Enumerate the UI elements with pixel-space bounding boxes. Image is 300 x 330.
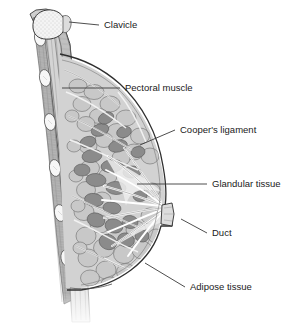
leader-line-clavicle	[69, 22, 99, 25]
label-text-duct: Duct	[212, 227, 232, 238]
anatomy-figure: Clavicle Pectoral muscle Cooper's ligame…	[0, 0, 300, 330]
bottom-fade	[0, 292, 300, 330]
label-text-coopers-ligament: Cooper's ligament	[180, 124, 257, 135]
label-clavicle[interactable]: Clavicle	[69, 19, 137, 30]
label-adipose-tissue[interactable]: Adipose tissue	[145, 263, 252, 292]
leader-line-duct	[181, 219, 207, 233]
label-duct[interactable]: Duct	[181, 219, 232, 238]
breast-cross-section-illustration: Clavicle Pectoral muscle Cooper's ligame…	[0, 0, 300, 330]
leader-line-adipose-tissue	[145, 263, 185, 287]
label-text-clavicle: Clavicle	[104, 19, 137, 30]
label-text-glandular-tissue: Glandular tissue	[212, 178, 281, 189]
label-text-pectoral-muscle: Pectoral muscle	[125, 82, 193, 93]
nipple	[161, 203, 174, 226]
label-text-adipose-tissue: Adipose tissue	[190, 281, 252, 292]
